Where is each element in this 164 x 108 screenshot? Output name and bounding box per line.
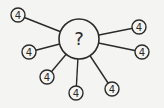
- leaf-node: 4: [11, 8, 25, 22]
- center-node: ?: [59, 19, 99, 59]
- leaf-node: 4: [22, 45, 36, 59]
- leaf-label: 4: [26, 47, 32, 58]
- leaf-node: 4: [135, 45, 149, 59]
- leaf-node: 4: [105, 82, 119, 96]
- leaf-label: 4: [44, 72, 50, 83]
- leaf-label: 4: [73, 88, 79, 99]
- leaf-node: 4: [40, 70, 54, 84]
- leaf-label: 4: [139, 47, 145, 58]
- leaf-node: 4: [132, 20, 146, 34]
- leaf-node: 4: [69, 86, 83, 100]
- leaf-label: 4: [15, 10, 21, 21]
- center-label: ?: [74, 28, 84, 49]
- leaf-label: 4: [109, 84, 115, 95]
- hub-diagram: 4444444 ?: [0, 0, 164, 108]
- leaf-label: 4: [136, 22, 142, 33]
